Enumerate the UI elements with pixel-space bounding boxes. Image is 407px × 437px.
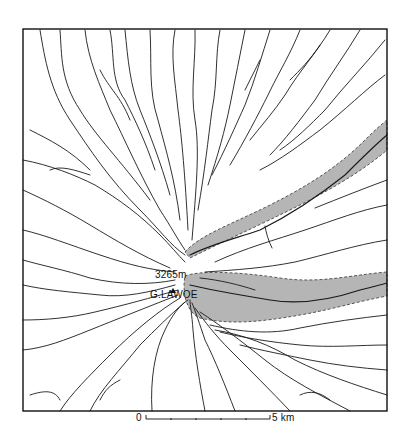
stream-network [23,30,387,411]
summit-name-label: G.LAWOE [150,289,198,300]
summit-elevation-label: 3265m [155,269,187,280]
scale-end-label: 5 km [272,412,294,423]
shaded-valley-north [185,120,387,258]
drainage-map [0,0,407,437]
scale-start-label: 0 [136,412,142,423]
scale-bar [146,415,270,420]
map-frame [23,29,387,411]
